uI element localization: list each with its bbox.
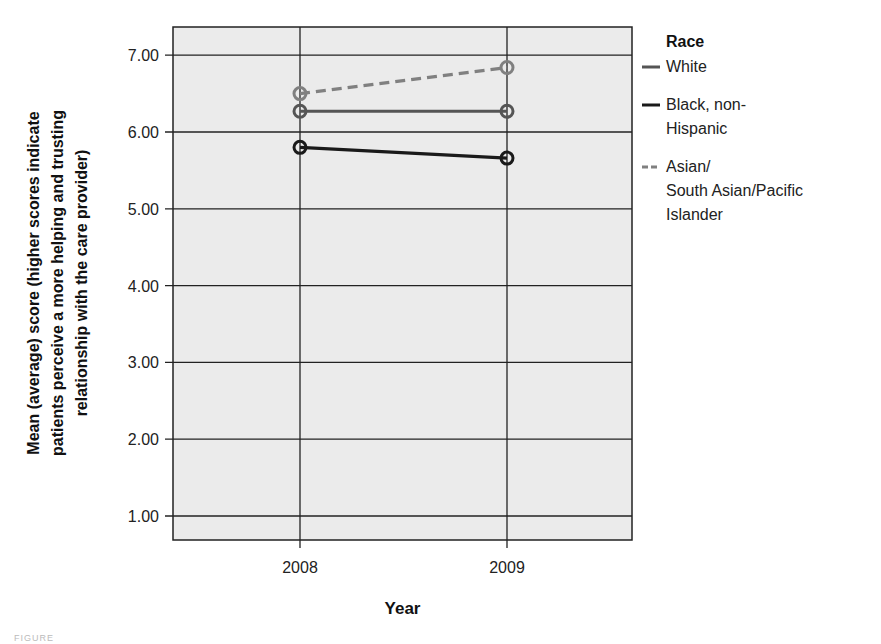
y-tick-label: 4.00: [128, 278, 159, 295]
legend-label: Black, non-: [666, 96, 746, 113]
plot-area: [173, 27, 632, 540]
legend-title: Race: [666, 33, 704, 50]
x-axis-label: Year: [385, 599, 421, 618]
y-tick-label: 3.00: [128, 354, 159, 371]
x-tick-label: 2009: [489, 559, 525, 576]
y-tick-label: 7.00: [128, 47, 159, 64]
legend-label: Asian/: [666, 158, 711, 175]
legend-label: South Asian/Pacific: [666, 182, 803, 199]
y-axis-label: Mean (average) score (higher scores indi…: [25, 111, 42, 454]
legend-label: Islander: [666, 206, 724, 223]
y-axis-label: relationship with the care provider): [73, 150, 90, 417]
figure-caption: FIGURE: [14, 633, 54, 643]
y-tick-label: 1.00: [128, 508, 159, 525]
y-axis-label: patients perceive a more helping and tru…: [49, 110, 66, 456]
x-tick-label: 2008: [282, 559, 318, 576]
legend-label: White: [666, 58, 707, 75]
legend-label: Hispanic: [666, 120, 727, 137]
y-tick-label: 5.00: [128, 201, 159, 218]
y-tick-label: 2.00: [128, 431, 159, 448]
y-tick-label: 6.00: [128, 124, 159, 141]
line-chart: 1.002.003.004.005.006.007.0020082009Year…: [0, 0, 881, 644]
